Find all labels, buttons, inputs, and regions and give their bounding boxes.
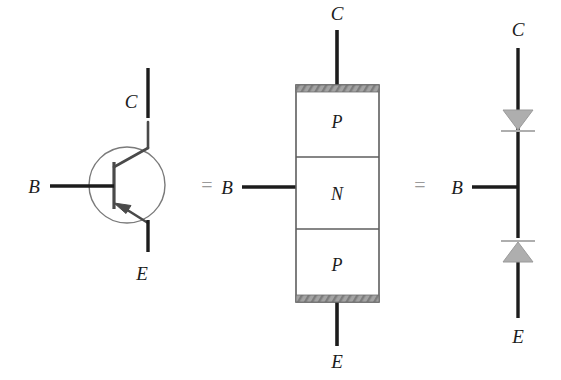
block-base-label: B	[221, 177, 233, 198]
canvas-background	[0, 0, 561, 380]
figure-root: C B E = P N P C B E	[0, 0, 561, 380]
equals-sign-1: =	[201, 174, 212, 196]
block-collector-label: C	[331, 3, 344, 24]
symbol-emitter-label: E	[135, 263, 148, 284]
equals-sign-2: =	[414, 174, 425, 196]
diode-collector-label: C	[512, 19, 525, 40]
bottom-contact-bar	[296, 295, 379, 302]
top-contact-bar	[296, 85, 379, 92]
region-label-p-top: P	[331, 112, 343, 132]
schematic-canvas: C B E = P N P C B E	[0, 0, 561, 380]
region-label-p-bottom: P	[331, 255, 343, 275]
region-label-n: N	[330, 184, 344, 204]
diode-base-label: B	[451, 177, 463, 198]
symbol-base-label: B	[28, 176, 40, 197]
block-emitter-label: E	[330, 351, 343, 372]
diode-emitter-label: E	[511, 326, 524, 347]
symbol-collector-label: C	[125, 91, 138, 112]
